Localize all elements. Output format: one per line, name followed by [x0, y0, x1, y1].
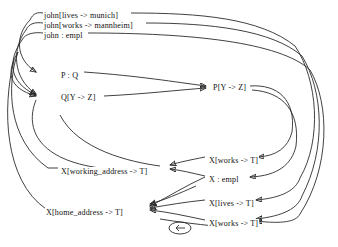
node-x-lives-t: X[lives -> T] [208, 199, 255, 208]
edge-into-x-lives [256, 178, 300, 200]
edge-to-q-yz-b [13, 40, 36, 95]
node-x-works-t-lower: X[works -> T] [208, 219, 259, 228]
edge-hook-top-1 [30, 13, 43, 20]
node-x-working-address-t: X[working_address -> T] [60, 167, 148, 176]
node-x-works-t-upper: X[works -> T] [208, 156, 259, 165]
node-q-y-z: Q[Y -> Z] [60, 93, 97, 102]
derivation-diagram: john[lives -> munich] john[works -> mann… [0, 0, 338, 247]
edge-hook-top-2 [26, 23, 43, 30]
node-x-home-address-t: X[home_address -> T] [45, 208, 124, 217]
edge-top-2-right [146, 23, 302, 56]
edge-into-x-works-top [258, 132, 292, 157]
node-john-empl: john : empl [43, 31, 84, 40]
edge-left-down-working [12, 52, 48, 168]
node-john-works-mannheim: john[works -> mannheim] [43, 21, 134, 30]
edge-qyz-down-2 [60, 115, 160, 166]
node-p-y-z: P[Y -> Z] [212, 83, 247, 92]
edge-qyz-down [32, 100, 100, 168]
edge-empl-to-working-address [170, 169, 205, 176]
edge-top-3-right [88, 33, 310, 70]
edge-upper-to-home-address [150, 186, 196, 204]
self-loop-arrow-icon [176, 225, 185, 231]
edge-through-self-loop [160, 219, 214, 226]
node-john-lives-munich: john[lives -> munich] [43, 11, 119, 20]
edge-top-1-right [131, 13, 295, 46]
edge-right-arc-2 [302, 56, 319, 196]
node-x-empl: X : empl [208, 175, 240, 184]
node-p-q: P : Q [60, 71, 79, 80]
edge-to-q-yz-c [11, 52, 36, 96]
edge-qyz-to-pyz [104, 88, 206, 96]
edge-pq-to-pyz [84, 72, 206, 86]
edge-works-to-working-address [170, 157, 205, 165]
edge-hook-top-3 [22, 33, 43, 40]
edge-works-to-home-address [150, 210, 205, 220]
edge-pyz-right-1 [250, 86, 293, 132]
